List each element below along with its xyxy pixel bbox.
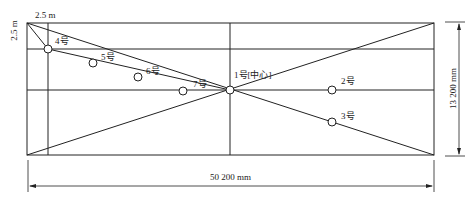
arrow-up-icon	[457, 23, 461, 30]
point-7-label: 7号	[193, 80, 207, 89]
point-2-marker	[328, 86, 336, 94]
point-7-marker	[179, 87, 187, 95]
point-1-label: 1号[中心]	[234, 71, 272, 80]
arrow-down-icon	[457, 148, 461, 155]
point-5-label: 5号	[101, 53, 115, 62]
point-2-label: 2号	[341, 77, 355, 86]
length-dimension-text: 50 200 mm	[210, 173, 251, 182]
point-3-marker	[328, 118, 336, 126]
width-dimension-text: 13 200 mm	[449, 64, 458, 114]
offset-y-dimension: 2.5 m	[10, 19, 19, 43]
point-1-marker	[226, 86, 234, 94]
point-3-label: 3号	[341, 112, 355, 121]
point-6-label: 6号	[146, 67, 160, 76]
arrow-right-icon	[426, 184, 433, 188]
point-4-label: 4号	[55, 37, 69, 46]
point-5-marker	[89, 59, 97, 67]
point-4-marker	[44, 45, 52, 53]
offset-x-dimension: 2.5 m	[35, 11, 56, 20]
point-6-marker	[134, 73, 142, 81]
arrow-left-icon	[29, 184, 36, 188]
